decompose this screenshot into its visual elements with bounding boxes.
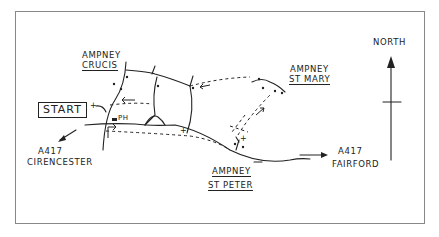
walk-route	[106, 131, 230, 150]
north-arrow-head	[387, 56, 395, 68]
st-mary-road	[252, 80, 285, 93]
ampney-st-peter-label: AMPNEY	[212, 166, 251, 177]
ampney-crucis-label: AMPNEY	[82, 50, 121, 60]
crucis-road	[103, 62, 126, 150]
north-label: NORTH	[373, 37, 406, 47]
ampney-st-mary-label-2: ST MARY	[289, 74, 330, 85]
cirencester-label: CIRENCESTER	[27, 157, 93, 167]
ampney-crucis-label-2: CRUCIS	[82, 60, 118, 71]
svg-text:+: +	[240, 134, 247, 143]
a417-east-label: A417	[338, 146, 362, 156]
ampney-st-peter-label-2: ST PETER	[208, 180, 253, 191]
start-label: START	[38, 102, 87, 118]
a417-west-label: A417	[38, 146, 62, 156]
svg-text:+: +	[180, 126, 187, 135]
svg-text:+: +	[90, 101, 97, 110]
main-road	[85, 124, 310, 162]
ampney-st-mary-label: AMPNEY	[290, 64, 329, 74]
pub-label: PH	[118, 113, 129, 123]
fairford-label: FAIRFORD	[332, 159, 379, 169]
route-map: ++ +	[0, 0, 439, 237]
road-north	[126, 70, 190, 86]
